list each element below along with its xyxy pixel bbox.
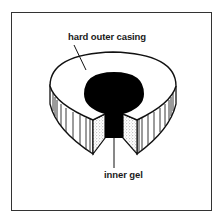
cut-face-left xyxy=(93,114,105,154)
cut-face-right xyxy=(123,114,137,154)
label-hard-outer-casing: hard outer casing xyxy=(68,31,146,42)
label-inner-gel: inner gel xyxy=(104,169,143,180)
